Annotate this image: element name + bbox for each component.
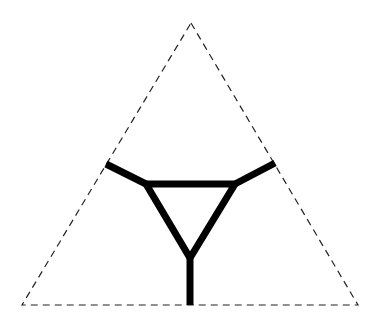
diagram-canvas: [0, 0, 382, 322]
inner-network: [106, 163, 275, 305]
inner-solid-triangle: [146, 184, 235, 258]
triangle-network-diagram: [0, 0, 382, 322]
right-spoke: [235, 163, 275, 184]
left-spoke: [106, 164, 146, 184]
